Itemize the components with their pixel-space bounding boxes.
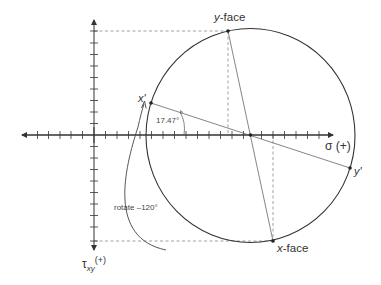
point-x-prime <box>149 101 153 105</box>
label-tau-sub: xy <box>87 264 95 273</box>
label-x-face: x-face <box>277 243 308 255</box>
label-sigma-axis: σ (+) <box>325 140 351 152</box>
angle-arc <box>180 112 185 135</box>
label-y-prime: y' <box>354 166 362 177</box>
label-y-face: y-face <box>214 12 245 24</box>
rotation-arrow-arc <box>125 104 166 250</box>
label-tau-axis: τxy(+) <box>82 256 106 273</box>
point-y-face <box>226 29 230 33</box>
label-x-face-rest: -face <box>283 242 309 254</box>
label-angle: 17.47° <box>156 117 179 125</box>
point-x-face <box>271 239 275 243</box>
label-x-prime: x' <box>138 93 146 104</box>
point-y-prime <box>348 166 352 170</box>
point-center <box>249 133 253 137</box>
mohr-circle-diagram <box>0 0 381 285</box>
label-y-face-rest: -face <box>220 11 246 23</box>
label-rotate: rotate –120° <box>114 204 158 212</box>
label-tau-suffix: (+) <box>95 255 106 265</box>
